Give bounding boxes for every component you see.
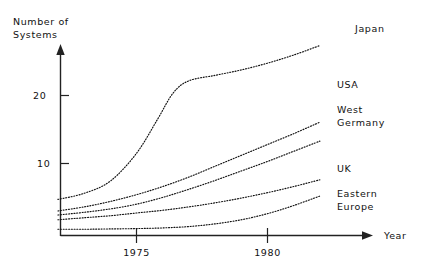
y-axis-title-line1: Number of <box>13 16 69 27</box>
y-axis-arrow-head <box>56 44 64 55</box>
series-label-eastern-europe-line1: Eastern <box>337 188 377 199</box>
series-line-eastern-europe <box>58 196 320 229</box>
chart-canvas: Number of Systems 20 10 1975 1980 Year J… <box>0 0 424 267</box>
series-line-uk <box>58 180 320 220</box>
series-label-eastern-europe-line2: Europe <box>337 201 374 212</box>
series-label-usa: USA <box>337 79 358 90</box>
series-line-japan <box>58 46 320 200</box>
series-label-japan: Japan <box>354 23 385 34</box>
series-line-usa <box>58 122 320 211</box>
x-tick-label-1975: 1975 <box>123 247 150 258</box>
x-axis-title: Year <box>383 230 407 241</box>
series-label-west-germany-line1: West <box>337 104 363 115</box>
chart-figure: Number of Systems 20 10 1975 1980 Year J… <box>0 0 424 267</box>
y-tick-label-10: 10 <box>37 158 50 169</box>
y-axis-title-line2: Systems <box>13 29 58 40</box>
series-lines-group <box>58 46 320 230</box>
x-tick-label-1980: 1980 <box>254 247 281 258</box>
y-tick-label-20: 20 <box>33 90 46 101</box>
x-axis-arrow-head <box>362 231 373 239</box>
series-label-uk: UK <box>337 163 352 174</box>
series-line-west-germany <box>58 141 320 215</box>
series-label-west-germany-line2: Germany <box>337 117 385 128</box>
